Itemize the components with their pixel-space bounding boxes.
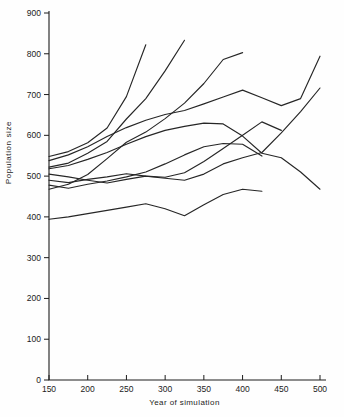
series-line-run-9 [49, 189, 262, 219]
series-line-run-7 [49, 122, 281, 183]
y-tick-label: 300 [27, 253, 41, 263]
x-tick-label: 250 [119, 384, 133, 394]
y-axis-title: Population size [4, 108, 13, 198]
x-tick-label: 300 [158, 384, 172, 394]
chart-canvas: 0100200300400500600700800900150200250300… [0, 0, 344, 417]
series-line-run-4 [49, 56, 320, 160]
x-axis-title: Year of simulation [49, 398, 320, 407]
y-tick-label: 100 [27, 334, 41, 344]
axis-lines [49, 11, 326, 380]
x-tick-label: 500 [313, 384, 327, 394]
x-tick-label: 350 [197, 384, 211, 394]
y-tick-label: 700 [27, 90, 41, 100]
y-tick-label: 800 [27, 49, 41, 59]
y-tick-label: 900 [27, 8, 41, 18]
line-chart-figure: 0100200300400500600700800900150200250300… [0, 0, 344, 417]
y-tick-label: 400 [27, 212, 41, 222]
y-tick-label: 200 [27, 293, 41, 303]
x-tick-label: 400 [235, 384, 249, 394]
y-tick-label: 500 [27, 171, 41, 181]
x-tick-label: 150 [42, 384, 56, 394]
x-tick-label: 450 [274, 384, 288, 394]
y-tick-label: 0 [36, 375, 41, 385]
x-tick-label: 200 [81, 384, 95, 394]
series-line-run-5 [49, 88, 320, 183]
y-tick-label: 600 [27, 130, 41, 140]
